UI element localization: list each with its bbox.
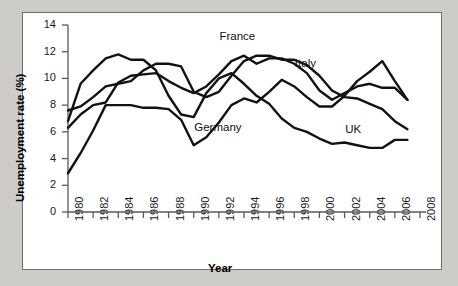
x-tick-label: 1992	[224, 197, 236, 221]
y-tick-label: 6	[34, 125, 56, 137]
x-tick-label: 2008	[425, 197, 437, 221]
series-label-uk: UK	[345, 123, 361, 135]
x-tick-label: 1994	[249, 197, 261, 221]
series-label-italy: Italy	[295, 57, 316, 69]
x-tick-label: 1996	[274, 197, 286, 221]
y-tick-label: 10	[34, 71, 56, 83]
x-tick-label: 1982	[98, 197, 110, 221]
x-tick-label: 1984	[123, 197, 135, 221]
y-tick-label: 0	[34, 205, 56, 217]
series-label-germany: Germany	[194, 121, 241, 133]
series-label-france: France	[219, 30, 255, 42]
x-tick-label: 1990	[199, 197, 211, 221]
y-tick-label: 2	[34, 178, 56, 190]
x-tick-label: 1998	[299, 197, 311, 221]
y-axis-title: Unemployment rate (%)	[14, 74, 26, 202]
x-tick-label: 2002	[350, 197, 362, 221]
y-tick-label: 14	[34, 18, 56, 30]
figure-background: Unemployment rate (%) Year 02468101214 1…	[0, 0, 458, 286]
y-tick-label: 8	[34, 98, 56, 110]
y-tick-label: 12	[34, 45, 56, 57]
chart-panel	[22, 12, 442, 270]
x-tick-label: 1986	[148, 197, 160, 221]
x-tick-label: 1988	[174, 197, 186, 221]
y-tick-label: 4	[34, 152, 56, 164]
x-axis-title: Year	[208, 262, 232, 274]
x-tick-label: 2004	[375, 197, 387, 221]
x-tick-label: 2000	[324, 197, 336, 221]
x-tick-label: 1980	[73, 197, 85, 221]
x-tick-label: 2006	[400, 197, 412, 221]
